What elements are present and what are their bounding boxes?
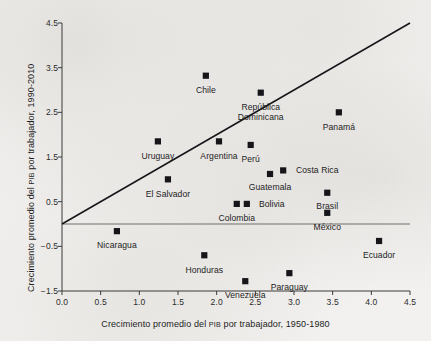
data-point-label-line: Costa Rica bbox=[296, 165, 339, 176]
forty-five-degree-line bbox=[62, 23, 410, 224]
data-point-label-line: Colombia bbox=[218, 213, 255, 224]
data-point-label-line: Uruguay bbox=[141, 151, 174, 162]
y-axis-title-post: por trabajador, 1990-2010 bbox=[26, 64, 36, 173]
y-tick-label: 4.5 bbox=[36, 18, 58, 28]
y-tick-label: −0.5 bbox=[36, 241, 58, 251]
x-tick-label: 0.5 bbox=[95, 297, 107, 307]
data-point-label: Nicaragua bbox=[97, 240, 137, 251]
data-point-label-line: Bolivia bbox=[259, 199, 285, 210]
y-tick-label: 3.5 bbox=[36, 63, 58, 73]
data-point-label-line: República bbox=[238, 102, 284, 113]
data-point-label-line: Perú bbox=[242, 154, 260, 165]
data-point-label: Brasil bbox=[316, 201, 338, 212]
y-tick-label: 0.5 bbox=[36, 197, 58, 207]
data-point-marker bbox=[203, 73, 209, 79]
data-point-label-line: Nicaragua bbox=[97, 240, 137, 251]
data-point-label-line: Paraguay bbox=[271, 282, 308, 293]
data-point-marker bbox=[242, 278, 248, 284]
x-tick-label: 0.0 bbox=[56, 297, 68, 307]
data-point-label: RepúblicaDominicana bbox=[238, 102, 284, 123]
y-tick-label: −1.5 bbox=[36, 286, 58, 296]
y-tick-label: 2.5 bbox=[36, 107, 58, 117]
data-point-label: Guatemala bbox=[249, 182, 292, 193]
data-point-marker bbox=[267, 171, 273, 177]
x-tick-label: 3.0 bbox=[288, 297, 300, 307]
data-point-label: El Salvador bbox=[146, 189, 191, 200]
data-point-marker bbox=[258, 90, 264, 96]
data-point-label-line: Honduras bbox=[185, 265, 223, 276]
data-point-label-line: Panamá bbox=[323, 122, 355, 133]
x-axis-title-acronym: PIB bbox=[209, 320, 221, 329]
data-point-label: Colombia bbox=[218, 213, 255, 224]
x-tick-label: 4.5 bbox=[404, 297, 416, 307]
data-point-marker bbox=[280, 167, 286, 173]
data-point-marker bbox=[244, 201, 250, 207]
data-point-marker bbox=[114, 228, 120, 234]
x-axis-title-post: por trabajador, 1950-1980 bbox=[221, 319, 330, 329]
data-point-marker bbox=[155, 138, 161, 144]
data-point-label: Ecuador bbox=[363, 250, 395, 261]
data-point-label: Panamá bbox=[323, 122, 355, 133]
data-point-label: Perú bbox=[242, 154, 260, 165]
x-tick-label: 3.5 bbox=[327, 297, 339, 307]
data-point-label-line: Brasil bbox=[316, 201, 338, 212]
data-point-marker bbox=[336, 109, 342, 115]
data-point-label: Paraguay bbox=[271, 282, 308, 293]
y-tick-label: 1.5 bbox=[36, 152, 58, 162]
data-point-marker bbox=[286, 270, 292, 276]
data-point-marker bbox=[216, 138, 222, 144]
data-point-label: Argentina bbox=[200, 151, 237, 162]
data-point-label: Chile bbox=[196, 85, 216, 96]
data-point-marker bbox=[376, 238, 382, 244]
y-axis-title-acronym: PIB bbox=[27, 172, 36, 184]
data-point-marker bbox=[324, 190, 330, 196]
data-point-label-line: Chile bbox=[196, 85, 216, 96]
x-tick-label: 1.5 bbox=[172, 297, 184, 307]
data-point-label-line: Ecuador bbox=[363, 250, 395, 261]
x-axis-title-pre: Crecimiento promedio del bbox=[101, 319, 209, 329]
data-point-label: Bolivia bbox=[259, 199, 285, 210]
data-point-label: Uruguay bbox=[141, 151, 174, 162]
x-axis-title: Crecimiento promedio del PIB por trabaja… bbox=[0, 319, 431, 329]
plot-canvas bbox=[0, 0, 431, 341]
y-axis-title-pre: Crecimiento promedio del bbox=[26, 184, 36, 292]
data-point-label: México bbox=[313, 222, 341, 233]
data-point-label-line: Guatemala bbox=[249, 182, 292, 193]
y-axis-title: Crecimiento promedio del PIB por trabaja… bbox=[26, 64, 36, 292]
data-point-marker bbox=[201, 252, 207, 258]
data-point-label-line: El Salvador bbox=[146, 189, 191, 200]
scatter-chart-figure: 0.00.51.01.52.02.53.03.54.04.5 4.53.52.5… bbox=[0, 0, 431, 341]
data-point-label-line: Venezuela bbox=[225, 290, 266, 301]
data-point-label: Costa Rica bbox=[296, 165, 339, 176]
data-point-label-line: Dominicana bbox=[238, 112, 284, 123]
data-point-marker bbox=[248, 142, 254, 148]
data-point-label: Honduras bbox=[185, 265, 223, 276]
data-point-label-line: México bbox=[313, 222, 341, 233]
data-point-label: Venezuela bbox=[225, 290, 266, 301]
data-point-marker bbox=[234, 201, 240, 207]
x-tick-label: 1.0 bbox=[133, 297, 145, 307]
data-point-marker bbox=[165, 176, 171, 182]
x-tick-label: 2.0 bbox=[211, 297, 223, 307]
reference-line-group bbox=[62, 23, 410, 224]
x-tick-label: 4.0 bbox=[365, 297, 377, 307]
data-point-label-line: Argentina bbox=[200, 151, 237, 162]
